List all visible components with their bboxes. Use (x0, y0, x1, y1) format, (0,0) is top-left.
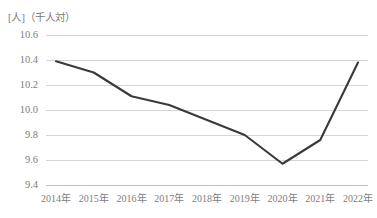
x-tick-label: 2021年 (305, 192, 335, 206)
gridline-10.0 (46, 110, 368, 111)
y-tick-label: 9.6 (25, 154, 38, 165)
x-tick-label: 2015年 (79, 192, 109, 206)
y-tick-label: 10.2 (20, 79, 38, 90)
y-tick-label: 9.4 (25, 179, 38, 190)
y-axis-tick-labels: 10.610.410.210.09.89.69.4 (0, 0, 42, 218)
y-tick-label: 10.4 (20, 54, 38, 65)
x-tick-label: 2017年 (154, 192, 184, 206)
gridline-10.4 (46, 60, 368, 61)
line-chart: [人]（千人対） 10.610.410.210.09.89.69.4 2014年… (0, 0, 377, 218)
gridline-9.6 (46, 160, 368, 161)
x-tick-label: 2020年 (268, 192, 298, 206)
gridline-10.2 (46, 85, 368, 86)
x-tick-label: 2014年 (41, 192, 71, 206)
plot-area (46, 35, 368, 185)
x-tick-label: 2016年 (117, 192, 147, 206)
gridline-10.6 (46, 35, 368, 36)
y-tick-label: 10.6 (20, 29, 38, 40)
x-tick-label: 2018年 (192, 192, 222, 206)
y-tick-label: 10.0 (20, 104, 38, 115)
x-axis-tick-labels: 2014年2015年2016年2017年2018年2019年2020年2021年… (0, 192, 377, 212)
x-tick-label: 2022年 (343, 192, 373, 206)
x-tick-label: 2019年 (230, 192, 260, 206)
gridline-9.8 (46, 135, 368, 136)
y-tick-label: 9.8 (25, 129, 38, 140)
x-axis-line (46, 185, 368, 186)
